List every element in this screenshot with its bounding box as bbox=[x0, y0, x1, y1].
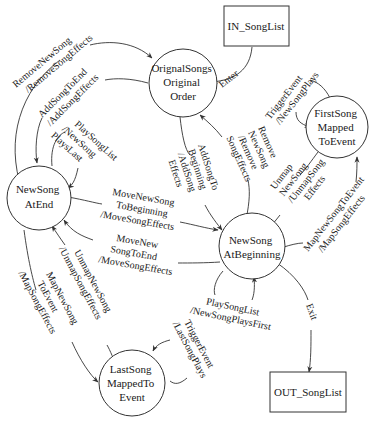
node-label-line: MappedTo bbox=[107, 377, 155, 389]
edge-label-add-song-to-beginning: AddSongTo Beginning /AddSong Effects bbox=[165, 142, 223, 204]
node-out-songlist: OUT_SongList bbox=[270, 372, 346, 412]
node-label-line: LastSong bbox=[110, 363, 152, 375]
node-label: IN_SongList bbox=[228, 20, 285, 32]
svg-text:FirstSong Mapped T: FirstSong Mapped ToEvent bbox=[314, 107, 360, 147]
node-lastsong-mapped: LastSong MappedTo Event bbox=[99, 350, 165, 416]
node-label-line: ToEvent bbox=[318, 135, 355, 147]
node-original-order: OrignalSongs Original Order bbox=[149, 49, 217, 117]
node-label-line: Event bbox=[119, 391, 145, 403]
node-label-line: NewSong bbox=[229, 234, 273, 246]
node-newsong-atbeginning: NewSong AtBeginning bbox=[219, 213, 285, 279]
state-diagram: IN_SongList OUT_SongList OrignalSongs Or… bbox=[0, 0, 383, 424]
node-label-line: OrignalSongs bbox=[151, 62, 212, 74]
node-firstsong-mapped: FirstSong Mapped ToEvent bbox=[306, 96, 368, 158]
edge-label-move-to-end: MoveNew SongToEnd /MoveSongEffects bbox=[98, 230, 178, 277]
edge-label-play-song-list-last: PlaySongList /NewSong PlaysLast bbox=[49, 112, 122, 182]
edge-label-play-song-list-first: PlaySongList /NewSongPlaysFirst bbox=[189, 293, 274, 333]
edge-label-trigger-event-last: TriggerEvent /LastSongPlays bbox=[171, 314, 220, 379]
node-newsong-atend: NewSong AtEnd bbox=[7, 166, 71, 230]
node-label-line: AtEnd bbox=[25, 198, 54, 210]
edge-label-exit: Exit bbox=[304, 302, 320, 322]
edge-exit bbox=[277, 263, 311, 372]
node-label-line: Mapped bbox=[318, 121, 355, 133]
node-label-line: AtBeginning bbox=[224, 248, 281, 260]
edge-label-enter: Enter bbox=[216, 67, 240, 89]
node-label: OUT_SongList bbox=[274, 386, 342, 398]
node-label-line: Original bbox=[163, 76, 200, 88]
node-in-songlist: IN_SongList bbox=[224, 6, 289, 46]
node-label-line: Order bbox=[170, 90, 196, 102]
node-label-line: NewSong bbox=[16, 183, 60, 195]
node-label-line: FirstSong bbox=[314, 107, 357, 119]
edge-label-move-to-beginning: MoveNewSong ToBeginning /MoveSongEffects bbox=[100, 185, 180, 232]
